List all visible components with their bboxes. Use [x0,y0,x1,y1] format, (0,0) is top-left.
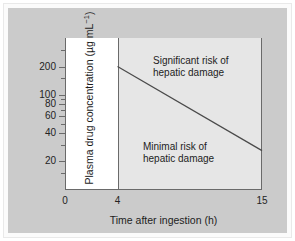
y-tick-label: 20 [45,156,56,166]
y-tick-mark [59,133,65,134]
y-tick-mark [61,50,65,51]
y-tick-mark [61,173,65,174]
plot-area: Significant risk of hepatic damage Minim… [65,38,262,190]
y-tick-mark [61,145,65,146]
y-tick-mark [59,104,65,105]
y-tick-label: 40 [45,128,56,138]
y-tick-mark [61,99,65,100]
x-tick-label: 0 [55,196,75,206]
y-tick-label: 200 [39,62,56,72]
y-tick-label: 60 [45,111,56,121]
y-tick-mark [61,124,65,125]
y-tick-mark [61,78,65,79]
annotation-significant-risk-line1: Significant risk of [153,55,229,67]
x-tick-label: 15 [252,196,272,206]
annotation-minimal-risk: Minimal risk of hepatic damage [143,141,214,165]
annotation-significant-risk-line2: hepatic damage [153,67,229,79]
y-tick-mark [59,116,65,117]
x-axis-title: Time after ingestion (h) [65,214,262,226]
y-tick-mark [61,110,65,111]
x-tick-label: 4 [108,196,128,206]
y-tick-mark [59,161,65,162]
figure-root: Significant risk of hepatic damage Minim… [0,0,295,241]
y-axis-title: Plasma drug concentration (µg mL−1) [83,0,95,198]
annotation-significant-risk: Significant risk of hepatic damage [153,55,229,79]
y-tick-mark [59,95,65,96]
y-tick-label: 80 [45,99,56,109]
annotation-minimal-risk-line1: Minimal risk of [143,141,214,153]
annotation-minimal-risk-line2: hepatic damage [143,153,214,165]
y-tick-mark [59,67,65,68]
